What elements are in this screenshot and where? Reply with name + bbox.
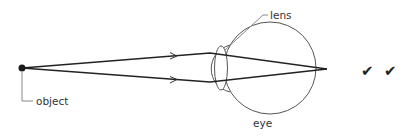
object-label: object — [36, 95, 68, 107]
lens-leader-line — [225, 15, 268, 50]
eye-diagram: object lens eye ✔ ✔ — [0, 0, 417, 136]
lens-shape — [215, 46, 228, 90]
eye-label: eye — [253, 117, 272, 129]
lens-label: lens — [270, 9, 292, 21]
check-mark-icon: ✔ — [361, 62, 374, 80]
upper-ray — [22, 53, 327, 69]
eyeball — [224, 22, 316, 114]
lower-ray — [22, 68, 327, 82]
check-mark-icon: ✔ — [384, 62, 397, 80]
object-leader-line — [22, 72, 33, 101]
object-point — [19, 65, 26, 72]
